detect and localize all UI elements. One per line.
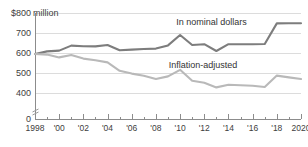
x-axis-label-2006: '06 [126, 123, 137, 133]
x-axis-label-1998: 1998 [26, 123, 45, 133]
y-axis-label-800: $800 [11, 8, 31, 18]
series-line-nominal [35, 23, 301, 54]
series-lines [35, 23, 301, 87]
line-chart: 400500600700$800million0 1998'00'02'04'0… [0, 0, 308, 147]
x-axis-label-2018: '18 [271, 123, 282, 133]
y-axis-label-500: 500 [16, 68, 31, 78]
y-axis-unit-label: million [33, 8, 59, 18]
x-axis [35, 114, 302, 120]
x-axis-label-2020: 2020 [292, 123, 308, 133]
x-axis-labels: 1998'00'02'04'06'08'10'12'14'16'182020 [26, 123, 308, 133]
x-axis-label-2014: '14 [223, 123, 234, 133]
series-label-inflation-adjusted: Inflation-adjusted [169, 60, 238, 70]
x-axis-label-2002: '02 [78, 123, 89, 133]
y-axis-labels: 400500600700$800million0 [11, 8, 59, 124]
series-label-nominal: In nominal dollars [176, 17, 247, 27]
y-axis [33, 13, 39, 115]
x-axis-label-2010: '10 [175, 123, 186, 133]
y-axis-label-400: 400 [16, 88, 31, 98]
x-axis-label-2008: '08 [150, 123, 161, 133]
x-axis-label-2000: '00 [54, 123, 65, 133]
y-axis-label-700: 700 [16, 28, 31, 38]
x-axis-label-2004: '04 [102, 123, 113, 133]
x-axis-label-2016: '16 [247, 123, 258, 133]
x-axis-label-2012: '12 [199, 123, 210, 133]
y-axis-label-600: 600 [16, 48, 31, 58]
chart-container: 400500600700$800million0 1998'00'02'04'0… [0, 0, 308, 147]
series-line-inflation-adjusted [35, 54, 301, 87]
gridlines [35, 14, 301, 94]
